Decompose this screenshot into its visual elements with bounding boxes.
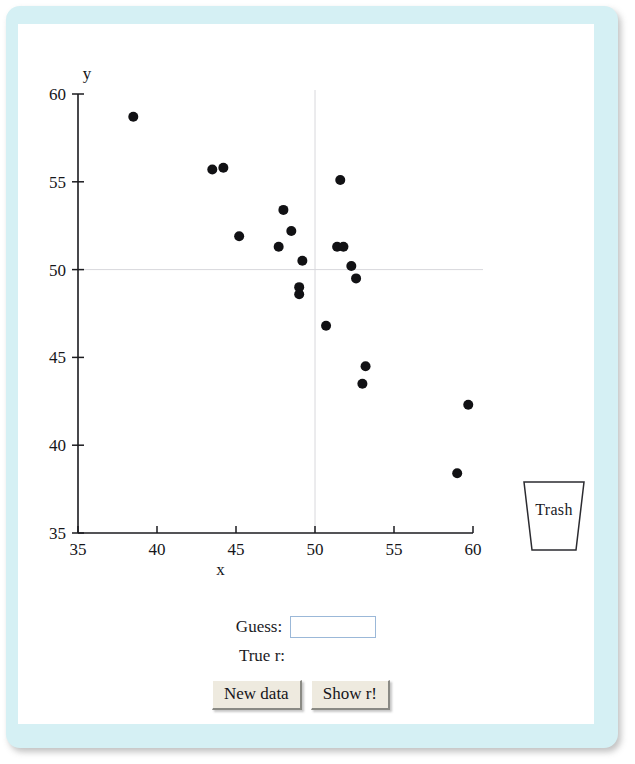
- data-point[interactable]: [338, 242, 348, 252]
- button-row: New data Show r!: [18, 680, 594, 710]
- applet-canvas: 354045505560 354045505560 x y Trash Gues…: [18, 24, 594, 724]
- data-point[interactable]: [274, 242, 284, 252]
- y-tick-label: 60: [49, 85, 66, 104]
- data-point[interactable]: [297, 256, 307, 266]
- controls-panel: Guess: True r: New data Show r!: [18, 616, 594, 720]
- x-tick-label: 45: [228, 540, 245, 559]
- x-axis-ticks: 354045505560: [70, 526, 482, 559]
- data-point[interactable]: [321, 321, 331, 331]
- plot-svg[interactable]: 354045505560 354045505560 x y: [18, 24, 594, 584]
- guess-row: Guess:: [18, 616, 594, 638]
- x-tick-label: 50: [307, 540, 324, 559]
- trash-can-label: Trash: [520, 501, 588, 519]
- x-axis-title: x: [216, 560, 225, 579]
- x-tick-label: 60: [465, 540, 482, 559]
- data-point[interactable]: [335, 175, 345, 185]
- data-point[interactable]: [463, 400, 473, 410]
- y-tick-label: 50: [49, 261, 66, 280]
- y-axis-title: y: [83, 64, 92, 83]
- data-point[interactable]: [351, 273, 361, 283]
- true-r-row: True r:: [18, 646, 594, 666]
- y-tick-label: 45: [49, 348, 66, 367]
- data-point[interactable]: [294, 289, 304, 299]
- x-tick-label: 40: [149, 540, 166, 559]
- gridlines: [78, 90, 483, 533]
- x-tick-label: 55: [386, 540, 403, 559]
- guess-input[interactable]: [290, 616, 376, 638]
- plot-axes: [78, 94, 473, 533]
- data-point[interactable]: [234, 231, 244, 241]
- data-point[interactable]: [357, 379, 367, 389]
- y-tick-label: 35: [49, 524, 66, 543]
- applet-frame: 354045505560 354045505560 x y Trash Gues…: [6, 6, 618, 748]
- data-point[interactable]: [218, 163, 228, 173]
- y-tick-label: 55: [49, 173, 66, 192]
- x-tick-label: 35: [70, 540, 87, 559]
- data-point[interactable]: [278, 205, 288, 215]
- data-point[interactable]: [128, 112, 138, 122]
- data-point[interactable]: [361, 361, 371, 371]
- data-point[interactable]: [452, 468, 462, 478]
- trash-can[interactable]: Trash: [520, 479, 588, 553]
- true-r-label: True r:: [239, 646, 285, 666]
- data-points[interactable]: [128, 112, 473, 478]
- guess-label: Guess:: [236, 617, 282, 637]
- data-point[interactable]: [207, 165, 217, 175]
- data-point[interactable]: [346, 261, 356, 271]
- show-r-button[interactable]: Show r!: [311, 680, 390, 710]
- new-data-button[interactable]: New data: [212, 680, 302, 710]
- scatter-plot[interactable]: 354045505560 354045505560 x y: [18, 24, 594, 584]
- y-tick-label: 40: [49, 436, 66, 455]
- data-point[interactable]: [286, 226, 296, 236]
